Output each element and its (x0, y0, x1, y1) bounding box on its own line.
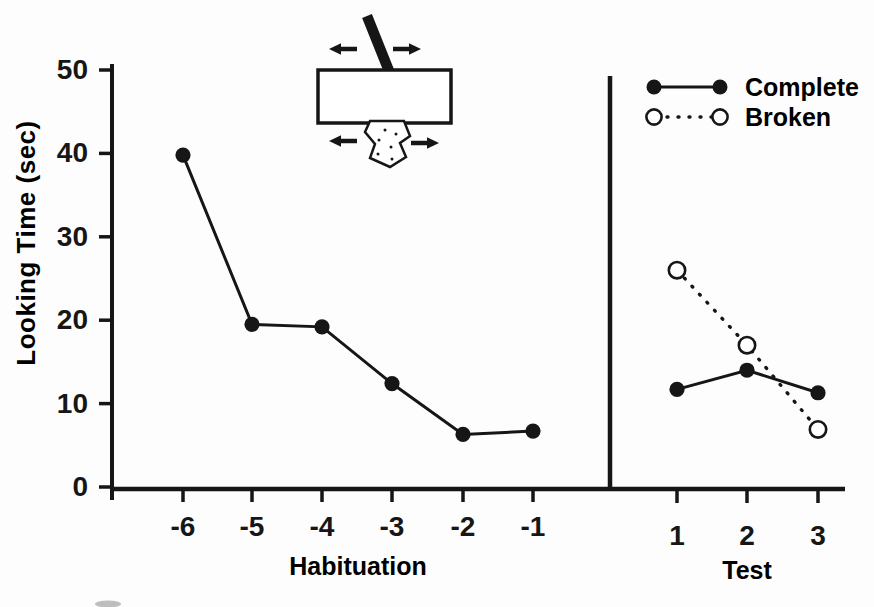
legend-item-complete: Complete (644, 72, 859, 102)
x-axis-tick-label-habituation: -3 (380, 511, 405, 542)
x-axis-title-habituation: Habituation (289, 552, 427, 581)
inset-fragment-blob (365, 121, 410, 167)
y-axis-tick-label: 50 (57, 54, 88, 85)
inset-arrow-left-top-head (329, 43, 341, 55)
y-axis-tick-label: 10 (57, 388, 88, 419)
inset-arrow-left-bottom-head (329, 135, 341, 147)
x-axis-tick-label-habituation: -1 (521, 511, 546, 542)
legend-item-broken: Broken (644, 102, 859, 132)
habituation-series-point (244, 317, 259, 332)
x-axis-tick-label-habituation: -5 (240, 511, 265, 542)
legend-label-complete: Complete (745, 73, 859, 102)
x-axis-tick-label-habituation: -6 (171, 511, 196, 542)
inset-fragment-speckle (395, 133, 398, 136)
legend: Complete Broken (644, 72, 859, 132)
y-axis-tick-label: 0 (72, 471, 88, 502)
habituation-series-point (525, 424, 540, 439)
inset-occluder-rect (318, 70, 451, 123)
x-axis-tick-label-test: 3 (810, 520, 826, 551)
y-axis-tick-label: 20 (57, 304, 88, 335)
y-axis-tick-label: 40 (57, 137, 88, 168)
inset-fragment-speckle (377, 153, 380, 156)
habituation-series-point (455, 427, 470, 442)
x-axis-tick-label-test: 1 (669, 520, 685, 551)
complete-series-point (669, 382, 684, 397)
inset-arrow-right-top-head (409, 43, 421, 55)
figure: 01020304050-6-5-4-3-2-1123 Looking Time … (0, 0, 874, 607)
broken-series-point (810, 421, 826, 437)
inset-fragment-speckle (384, 129, 387, 132)
legend-label-broken: Broken (745, 103, 831, 132)
inset-fragment-speckle (390, 146, 393, 149)
inset-fragment-speckle (391, 158, 394, 161)
habituation-series-point (384, 376, 399, 391)
inset-arrow-right-bottom-head (427, 137, 439, 149)
habituation-series-point (175, 147, 190, 162)
x-axis-title-test: Test (722, 556, 772, 585)
inset-fragment-speckle (378, 139, 381, 142)
habituation-series-line (183, 155, 533, 434)
complete-series-point (810, 385, 825, 400)
inset-tilted-rod (367, 16, 391, 76)
legend-marker-complete-icon (644, 74, 730, 100)
x-axis-tick-label-habituation: -4 (310, 511, 335, 542)
broken-series-point (669, 262, 685, 278)
legend-marker-broken-icon (644, 104, 730, 130)
complete-series-point (739, 363, 754, 378)
y-axis-tick-label: 30 (57, 221, 88, 252)
x-axis-tick-label-test: 2 (739, 520, 755, 551)
broken-series-point (739, 337, 755, 353)
habituation-series-point (314, 319, 329, 334)
y-axis-title: Looking Time (sec) (11, 120, 42, 365)
x-axis-tick-label-habituation: -2 (451, 511, 476, 542)
scan-artifact-smudge (95, 601, 121, 607)
